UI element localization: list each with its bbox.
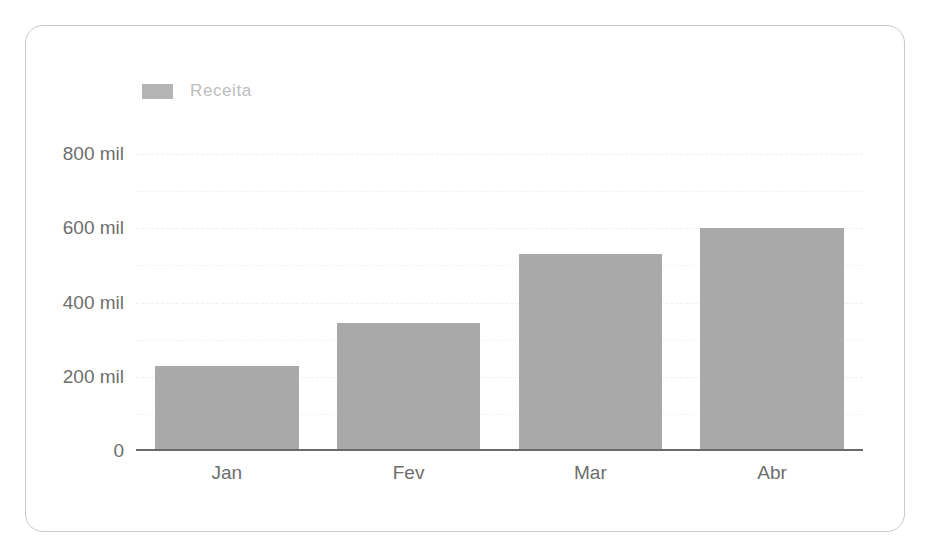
x-axis-tick-label: Abr <box>700 462 844 484</box>
bar-group: Jan <box>155 154 299 451</box>
x-axis-tick-label: Mar <box>519 462 663 484</box>
chart-card: Receita 0200 mil400 mil600 mil800 mil Ja… <box>25 25 905 532</box>
bar-fev[interactable] <box>337 323 481 451</box>
bar-series-receita: JanFevMarAbr <box>136 154 863 451</box>
bar-group: Mar <box>519 154 663 451</box>
y-axis-tick-label: 600 mil <box>63 217 124 239</box>
y-axis-tick-label: 0 <box>113 440 124 462</box>
legend-label-receita[interactable]: Receita <box>190 81 252 101</box>
y-axis-tick-label: 400 mil <box>63 292 124 314</box>
y-axis-tick-label: 800 mil <box>63 143 124 165</box>
bar-abr[interactable] <box>700 228 844 451</box>
y-axis-tick-label: 200 mil <box>63 366 124 388</box>
chart-legend: Receita <box>142 81 252 101</box>
bar-mar[interactable] <box>519 254 663 451</box>
bar-jan[interactable] <box>155 366 299 451</box>
screenshot-root: Receita 0200 mil400 mil600 mil800 mil Ja… <box>0 0 932 559</box>
bar-group: Abr <box>700 154 844 451</box>
bar-group: Fev <box>337 154 481 451</box>
x-axis-line <box>136 449 863 452</box>
legend-swatch-receita[interactable] <box>142 84 173 99</box>
plot-area: 0200 mil400 mil600 mil800 mil JanFevMarA… <box>136 154 863 451</box>
x-axis-tick-label: Fev <box>337 462 481 484</box>
x-axis-tick-label: Jan <box>155 462 299 484</box>
